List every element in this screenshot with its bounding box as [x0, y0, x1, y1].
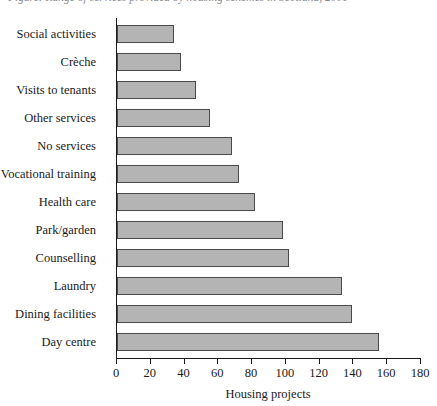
- category-label: Dining facilities: [15, 308, 96, 321]
- bar: [117, 249, 289, 267]
- x-tick: [420, 358, 421, 364]
- category-label: Counselling: [36, 252, 96, 265]
- x-tick: [116, 358, 117, 364]
- category-label: Other services: [24, 112, 96, 125]
- bar-row: No services: [0, 132, 437, 160]
- bar-row: Other services: [0, 104, 437, 132]
- x-tick: [285, 358, 286, 364]
- bar: [117, 53, 181, 71]
- bar-row: Vocational training: [0, 160, 437, 188]
- x-tick: [251, 358, 252, 364]
- figure-caption-clipped: Figure: Range of services provided by ho…: [0, 0, 437, 9]
- plot-area: Social activitiesCrècheVisits to tenants…: [0, 9, 437, 358]
- x-tick-label: 180: [400, 366, 437, 381]
- bar: [117, 305, 352, 323]
- x-tick: [150, 358, 151, 364]
- x-axis-title: Housing projects: [116, 387, 420, 402]
- category-label: Crèche: [61, 56, 96, 69]
- bar: [117, 81, 196, 99]
- bar: [117, 25, 174, 43]
- bar: [117, 165, 239, 183]
- x-tick: [184, 358, 185, 364]
- x-tick: [352, 358, 353, 364]
- bar-chart: Social activitiesCrècheVisits to tenants…: [0, 9, 437, 406]
- x-axis-line: [116, 358, 420, 359]
- category-label: Laundry: [54, 280, 96, 293]
- category-label: Day centre: [42, 336, 96, 349]
- bar-row: Counselling: [0, 244, 437, 272]
- bar-row: Visits to tenants: [0, 76, 437, 104]
- bar-row: Dining facilities: [0, 300, 437, 328]
- category-label: Park/garden: [36, 224, 96, 237]
- bar: [117, 221, 283, 239]
- bar-row: Health care: [0, 188, 437, 216]
- category-label: Social activities: [17, 28, 97, 41]
- category-label: Health care: [39, 196, 96, 209]
- bar: [117, 137, 232, 155]
- bar: [117, 193, 255, 211]
- x-tick: [217, 358, 218, 364]
- category-label: No services: [37, 140, 96, 153]
- bar-row: Laundry: [0, 272, 437, 300]
- bar-row: Social activities: [0, 20, 437, 48]
- bar-row: Day centre: [0, 328, 437, 356]
- bar-row: Park/garden: [0, 216, 437, 244]
- bar: [117, 277, 342, 295]
- category-label: Vocational training: [1, 168, 96, 181]
- x-tick: [386, 358, 387, 364]
- bar: [117, 109, 210, 127]
- bar: [117, 333, 379, 351]
- category-label: Visits to tenants: [16, 84, 96, 97]
- bar-row: Crèche: [0, 48, 437, 76]
- x-tick: [319, 358, 320, 364]
- figure-caption-text: Figure: Range of services provided by ho…: [8, 0, 348, 3]
